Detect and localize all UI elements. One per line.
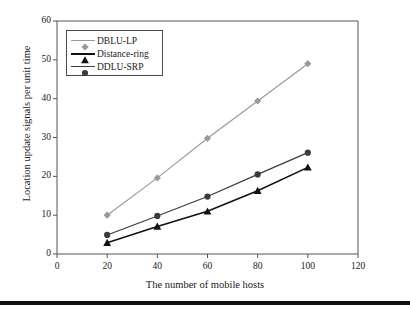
x-tick-label: 80 bbox=[238, 261, 278, 271]
x-tick-label: 100 bbox=[288, 261, 328, 271]
legend-label-0: DBLU-LP bbox=[95, 35, 137, 47]
y-tick-label: 60 bbox=[20, 15, 51, 25]
circle-marker-icon bbox=[305, 150, 311, 156]
circle-marker-icon bbox=[255, 171, 261, 177]
legend-label-2: DDLU-SRP bbox=[95, 61, 143, 73]
legend-swatch-1 bbox=[71, 48, 95, 60]
legend-item-1: Distance-ring bbox=[67, 47, 162, 60]
y-tick-label: 30 bbox=[20, 132, 51, 142]
triangle-marker-icon bbox=[304, 164, 312, 171]
legend-swatch-0 bbox=[71, 35, 95, 47]
y-axis-title: Location update signals per unit time bbox=[21, 14, 32, 234]
y-tick-label: 20 bbox=[20, 170, 51, 180]
x-axis-title: The number of mobile hosts bbox=[0, 279, 410, 290]
legend-item-0: DBLU-LP bbox=[67, 34, 162, 47]
circle-marker-icon bbox=[80, 64, 90, 82]
figure: Location update signals per unit time Th… bbox=[0, 0, 410, 311]
circle-marker-icon bbox=[154, 213, 160, 219]
series-line bbox=[107, 167, 308, 242]
x-tick-label: 40 bbox=[137, 261, 177, 271]
circle-marker-icon bbox=[204, 193, 210, 199]
y-tick-label: 10 bbox=[20, 209, 51, 219]
x-tick-label: 20 bbox=[87, 261, 127, 271]
legend-swatch-2 bbox=[71, 61, 95, 73]
triangle-marker-icon bbox=[254, 187, 262, 194]
legend-item-2: DDLU-SRP bbox=[67, 60, 162, 73]
y-tick-label: 0 bbox=[20, 248, 51, 258]
series-Distance-ring bbox=[103, 164, 311, 246]
y-tick-label: 40 bbox=[20, 93, 51, 103]
x-tick-label: 60 bbox=[188, 261, 228, 271]
legend-label-1: Distance-ring bbox=[95, 48, 149, 60]
bottom-rule bbox=[0, 301, 410, 305]
circle-marker-icon bbox=[104, 232, 110, 238]
y-tick-label: 50 bbox=[20, 54, 51, 64]
legend: DBLU-LP Distance-ring DDLU-SRP bbox=[66, 30, 163, 76]
x-tick-label: 120 bbox=[338, 261, 378, 271]
x-tick-label: 0 bbox=[37, 261, 77, 271]
